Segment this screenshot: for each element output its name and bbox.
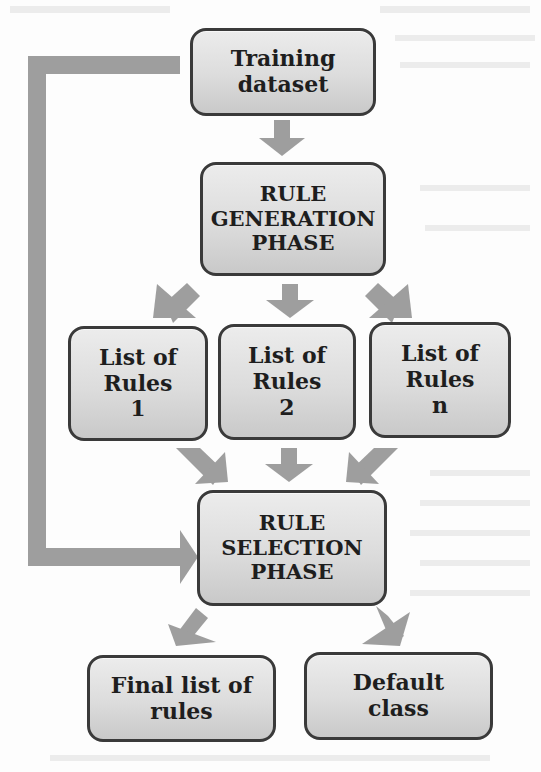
arrow-diagonal-left-icon xyxy=(168,608,216,646)
node-list-of-rules-2: List of Rules 2 xyxy=(218,324,356,440)
arrow-down-icon xyxy=(266,284,314,318)
arrow-diagonal-right-icon xyxy=(176,448,228,485)
node-list-of-rules-n: List of Rules n xyxy=(369,322,511,438)
arrow-diagonal-left-icon xyxy=(153,283,200,323)
node-label: List of Rules 2 xyxy=(248,343,326,421)
node-training-dataset: Training dataset xyxy=(190,28,376,116)
node-default-class: Default class xyxy=(304,652,493,740)
node-label: Final list of rules xyxy=(111,673,252,725)
node-final-list-of-rules: Final list of rules xyxy=(87,655,276,742)
node-label: List of Rules n xyxy=(401,341,479,419)
arrow-diagonal-right-icon xyxy=(362,606,410,646)
node-label: Training dataset xyxy=(231,46,336,98)
node-label: Default class xyxy=(353,670,444,722)
node-label: RULE GENERATION PHASE xyxy=(211,182,376,256)
node-label: RULE SELECTION PHASE xyxy=(221,511,363,585)
arrow-diagonal-left-icon xyxy=(346,448,398,485)
arrow-down-icon xyxy=(259,120,305,156)
node-label: List of Rules 1 xyxy=(99,345,177,423)
arrow-diagonal-right-icon xyxy=(365,283,412,323)
node-list-of-rules-1: List of Rules 1 xyxy=(68,326,208,441)
arrow-down-icon xyxy=(265,448,313,482)
node-rule-selection-phase: RULE SELECTION PHASE xyxy=(197,490,387,606)
node-rule-generation-phase: RULE GENERATION PHASE xyxy=(200,162,386,276)
